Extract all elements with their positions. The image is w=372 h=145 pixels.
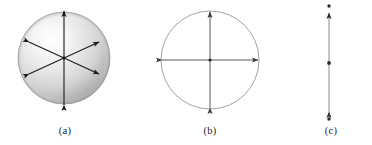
panel-b-caption: (b) <box>130 126 290 137</box>
panel-a-graphic <box>0 0 130 125</box>
segment-center-dot <box>327 61 331 65</box>
panel-c-caption: (c) <box>290 126 372 137</box>
panel-a-caption: (a) <box>0 126 130 137</box>
segment-bottom-dot <box>327 117 330 120</box>
sphere-center-dot <box>63 57 66 60</box>
figure-container: (a) (b) <box>0 0 372 145</box>
segment-top-dot <box>327 4 330 7</box>
panel-a-sphere: (a) <box>0 0 130 145</box>
panel-c-graphic <box>290 0 372 125</box>
panel-b-graphic <box>130 0 290 125</box>
panel-c-segment: (c) <box>290 0 372 145</box>
circle-center-dot <box>208 58 211 61</box>
panel-b-circle: (b) <box>130 0 290 145</box>
